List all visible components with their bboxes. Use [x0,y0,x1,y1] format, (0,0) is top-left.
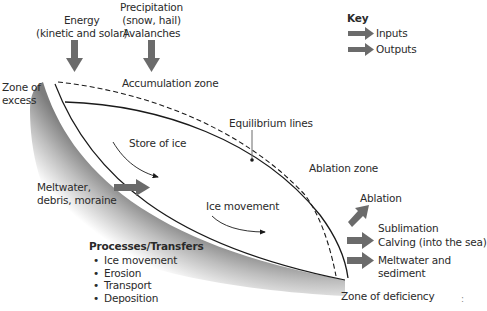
process-item: Erosion [93,267,177,280]
energy-label-line1: Energy [36,14,127,27]
zone-of-deficiency-label: Zone of deficiency [341,290,434,303]
corner-mark: : [461,293,464,306]
zone-of-excess-line1: Zone of [2,81,41,94]
key-outputs-label: Outputs [376,43,417,56]
process-item: Ice movement [93,254,177,267]
meltwater-output-label: Meltwater and sediment [378,254,451,280]
meltwater-input-line2: debris, moraine [37,194,117,207]
energy-label: Energy (kinetic and solar) [36,14,127,40]
accumulation-zone-label: Accumulation zone [122,77,219,90]
ice-movement-flow-arrow [212,216,265,232]
processes-title: Processes/Transfers [89,240,203,253]
precipitation-label: Precipitation (snow, hail) Avalanches [120,1,183,40]
ablation-output-arrow [348,205,369,227]
meltwater-output-arrow [347,252,374,269]
process-item: Deposition [93,292,177,305]
equilibrium-lines-label: Equilibrium lines [229,117,313,130]
ablation-output-label: Ablation [360,192,402,205]
ice-movement-label: Ice movement [206,200,279,213]
calving-output-arrow [347,232,374,249]
meltwater-input-line1: Meltwater, [37,181,117,194]
key-title: Key [347,12,368,25]
precipitation-label-line3: Avalanches [120,27,183,40]
energy-input-arrow [66,40,83,72]
sublimation-output-label: Sublimation [378,222,438,235]
key-inputs-arrow-icon [348,27,374,40]
key-inputs-label: Inputs [376,27,407,40]
meltwater-output-line1: Meltwater and [378,254,451,267]
precipitation-input-arrow [143,40,160,72]
energy-label-line2: (kinetic and solar) [36,27,127,40]
precipitation-label-line1: Precipitation [120,1,183,14]
key-outputs-arrow-icon [348,43,374,56]
zone-of-excess-label: Zone of excess [2,81,41,107]
processes-list: Ice movement Erosion Transport Depositio… [93,254,177,304]
precipitation-label-line2: (snow, hail) [120,14,183,27]
zone-of-excess-line2: excess [2,94,41,107]
meltwater-input-label: Meltwater, debris, moraine [37,181,117,207]
meltwater-output-line2: sediment [378,267,451,280]
store-of-ice-label: Store of ice [129,137,186,150]
ablation-zone-label: Ablation zone [309,162,378,175]
process-item: Transport [93,279,177,292]
calving-output-label: Calving (into the sea) [378,236,487,249]
